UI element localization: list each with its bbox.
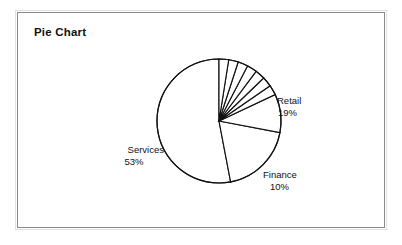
pie-label-services-value: 53% (108, 156, 164, 168)
chart-frame: Pie Chart Retail 19% Services 53% Financ… (17, 12, 385, 228)
pie-label-finance-name: Finance (263, 169, 297, 181)
pie-label-finance: Finance 10% (263, 169, 297, 192)
pie-label-finance-value: 10% (263, 181, 297, 193)
pie-label-services: Services 53% (108, 144, 164, 167)
pie-label-services-name: Services (108, 144, 164, 156)
screenshot-root: Pie Chart Retail 19% Services 53% Financ… (0, 0, 402, 245)
pie-chart-svg (18, 13, 386, 229)
pie-slice-group (157, 59, 281, 183)
pie-chart-area: Retail 19% Services 53% Finance 10% (18, 13, 386, 229)
pie-label-retail: Retail 19% (277, 95, 301, 118)
pie-label-retail-name: Retail (277, 95, 301, 107)
pie-label-retail-value: 19% (277, 107, 301, 119)
